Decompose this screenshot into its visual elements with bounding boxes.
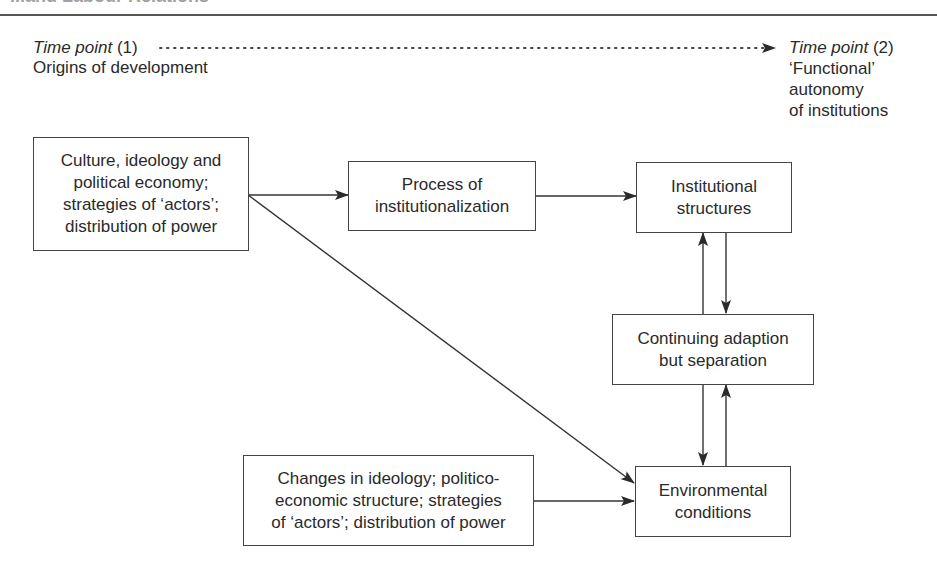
edge-culture-to-environmental (248, 195, 634, 483)
node-changes-in-ideology: Changes in ideology; politico- economic … (243, 455, 534, 546)
node-environmental-text: Environmental conditions (659, 480, 768, 524)
time-point-1-label: Time point (1) (33, 38, 138, 58)
time-point-1-italic: Time point (33, 38, 112, 57)
node-process-of-institutionalization: Process of institutionalization (348, 161, 536, 231)
node-process-text: Process of institutionalization (375, 174, 509, 218)
node-culture-text: Culture, ideology and political economy;… (61, 150, 222, 238)
node-institutional-text: Institutional structures (671, 176, 757, 220)
node-continuing-adaption: Continuing adaption but separation (612, 314, 814, 385)
time-point-1-caption: Origins of development (33, 58, 208, 78)
node-changes-text: Changes in ideology; politico- economic … (271, 468, 505, 534)
node-culture-ideology: Culture, ideology and political economy;… (33, 137, 249, 251)
node-institutional-structures: Institutional structures (636, 162, 792, 233)
time-point-2-label: Time point (2) (789, 38, 894, 58)
time-point-1-number: (1) (112, 38, 138, 57)
time-point-2-caption: ‘Functional’ autonomy of institutions (789, 58, 888, 121)
time-point-2-number: (2) (868, 38, 894, 57)
time-point-2-italic: Time point (789, 38, 868, 57)
node-environmental-conditions: Environmental conditions (635, 466, 791, 537)
node-continuing-text: Continuing adaption but separation (637, 328, 788, 372)
